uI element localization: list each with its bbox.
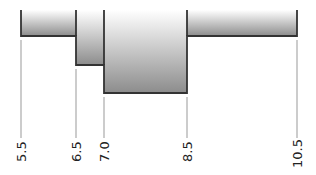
segment-6.5-7.0 — [76, 10, 104, 65]
segment-8.5-10.5 — [187, 10, 297, 36]
step-diagram: 5.5 6.5 7.0 8.5 10.5 — [0, 0, 316, 175]
tick-label: 7.0 — [97, 141, 112, 162]
tick-label: 8.5 — [180, 141, 195, 162]
tick-label: 5.5 — [14, 141, 29, 162]
segment-5.5-6.5 — [21, 10, 76, 36]
segment-7.0-8.5 — [104, 10, 187, 93]
tick-label: 6.5 — [69, 141, 84, 162]
tick-label: 10.5 — [290, 139, 305, 168]
